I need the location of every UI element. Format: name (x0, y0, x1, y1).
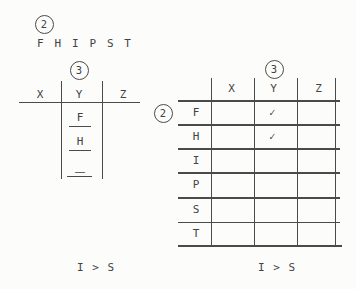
left-table-header-line (19, 102, 140, 104)
row-label-h: H (186, 130, 206, 143)
slot-entry-2: H (70, 135, 91, 148)
slot-entry-1: F (70, 111, 91, 124)
checkmark-row-t (262, 226, 283, 228)
letter-p: P (89, 37, 96, 50)
step-2-badge-left: 2 (35, 15, 54, 34)
row-label-t: T (186, 227, 206, 240)
row-label-i: I (186, 154, 206, 167)
left-header-z: Z (113, 88, 133, 101)
left-header-y: Y (69, 88, 89, 101)
right-table-hline-bottom (178, 245, 342, 247)
letter-h: H (54, 37, 61, 50)
row-label-f: F (186, 106, 206, 119)
left-header-x: X (30, 88, 50, 101)
left-table-vline-1 (61, 81, 63, 179)
letter-i: I (72, 37, 79, 50)
slot-underline-3 (67, 176, 92, 177)
right-header-z: Z (308, 82, 329, 95)
checkmark-row-s (262, 201, 283, 203)
right-table-vline-right (335, 78, 337, 246)
right-header-x: X (221, 82, 242, 95)
checkmark-row-p (262, 177, 283, 179)
slot-underline-1 (69, 126, 91, 127)
step-2-badge-right: 2 (154, 104, 173, 123)
right-table-hline-3 (178, 148, 340, 150)
left-caption: I > S (66, 261, 126, 274)
right-table-vline-1 (211, 78, 213, 246)
right-caption: I > S (247, 261, 307, 274)
letter-s: S (107, 37, 114, 50)
row-label-p: P (186, 178, 206, 191)
right-header-y: Y (263, 82, 284, 95)
right-table-hline-2 (178, 124, 340, 126)
slot-underline-2 (69, 150, 91, 151)
right-table-hline-5 (178, 197, 340, 199)
letter-f: F (37, 37, 44, 50)
step-3-badge-left: 3 (70, 61, 89, 80)
right-table-hline-4 (178, 172, 340, 174)
letter-list: F H I P S T (37, 37, 131, 50)
right-table-vline-3 (297, 78, 299, 246)
right-table-hline-6 (178, 222, 340, 224)
letter-t: T (124, 37, 131, 50)
worksheet-page: 2 F H I P S T 3 X Y Z F H — I > S 2 3 (0, 0, 356, 289)
right-table-hline-1 (178, 100, 340, 102)
step-3-badge-right: 3 (265, 60, 284, 79)
checkmark-row-i (262, 152, 283, 154)
row-label-s: S (186, 203, 206, 216)
checkmark-row-h: ✓ (262, 128, 283, 143)
left-table-vline-2 (102, 81, 104, 179)
right-table-vline-2 (254, 78, 256, 246)
checkmark-row-f: ✓ (262, 104, 283, 119)
